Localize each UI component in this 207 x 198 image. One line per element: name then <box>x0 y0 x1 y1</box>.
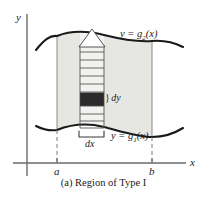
lower-curve-label: y = g1(x) <box>111 131 148 144</box>
y-axis-label: y <box>16 12 21 23</box>
dy-element-cell <box>81 93 104 106</box>
lower-curve-label-prefix: y = g <box>111 130 133 141</box>
figure-canvas <box>0 0 207 198</box>
dx-brace <box>79 131 104 137</box>
upper-curve-label-suffix: (x) <box>146 28 158 39</box>
dx-label: dx <box>85 139 94 149</box>
x-axis-label: x <box>190 157 195 168</box>
upper-curve-label-prefix: y = g <box>120 28 142 39</box>
figure-caption: (a) Region of Type I <box>0 177 207 188</box>
x-tick-label-b: b <box>149 166 155 177</box>
upper-curve-label: y = g2(x) <box>120 29 157 42</box>
dy-annotation: }dy <box>105 93 121 103</box>
x-tick-label-a: a <box>54 166 60 177</box>
lower-curve-label-suffix: (x) <box>137 130 149 141</box>
dy-brace-glyph: } <box>105 92 110 103</box>
dy-label: dy <box>111 92 120 103</box>
shaded-region <box>57 32 152 137</box>
figure-region-type-i: y x a b y = g2(x) y = g1(x) }dy dx (a) R… <box>0 0 207 198</box>
